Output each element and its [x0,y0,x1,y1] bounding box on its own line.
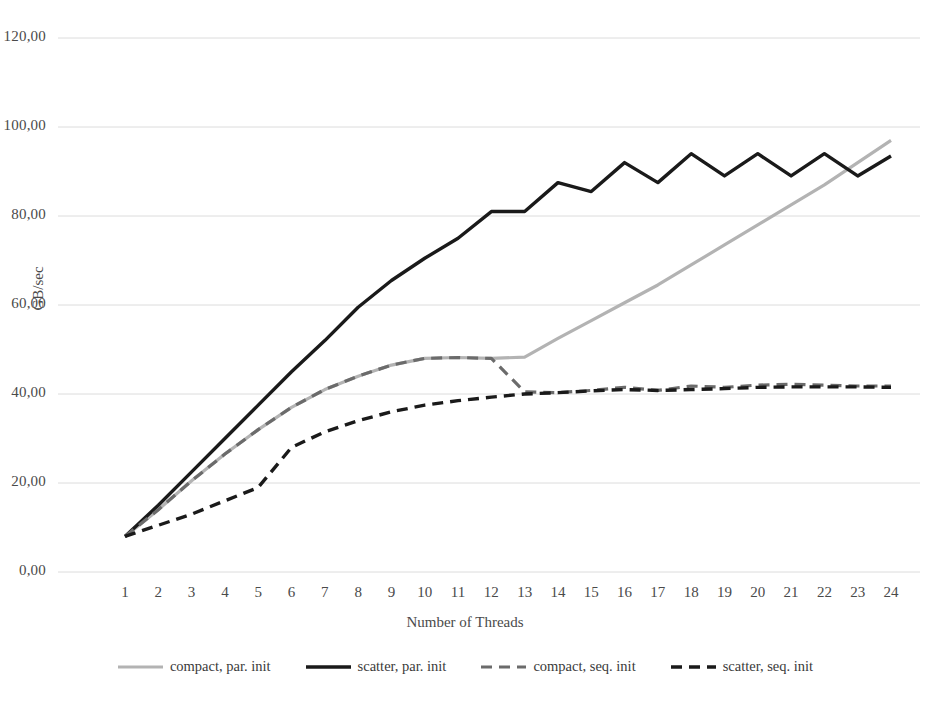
legend-label: scatter, par. init [358,658,447,675]
x-tick-label: 21 [775,584,807,601]
x-tick-label: 15 [575,584,607,601]
x-tick-label: 8 [342,584,374,601]
legend-swatch-icon [670,662,716,672]
y-tick-label: 100,00 [0,117,46,134]
chart-gridlines [58,38,920,572]
x-tick-label: 2 [142,584,174,601]
series-line-compact-par-init [125,140,891,536]
x-tick-label: 11 [442,584,474,601]
legend-swatch-icon [117,662,163,672]
legend-item-compact-seq-init[interactable]: compact, seq. init [480,658,635,675]
x-tick-label: 7 [309,584,341,601]
x-tick-label: 4 [209,584,241,601]
x-tick-label: 23 [842,584,874,601]
x-axis-title: Number of Threads [0,614,930,631]
legend-label: compact, par. init [170,658,271,675]
y-tick-label: 40,00 [0,384,46,401]
legend-item-scatter-seq-init[interactable]: scatter, seq. init [670,658,813,675]
y-tick-label: 20,00 [0,473,46,490]
x-tick-label: 17 [642,584,674,601]
legend-item-scatter-par-init[interactable]: scatter, par. init [305,658,447,675]
chart-series-layer [125,140,891,536]
legend-label: compact, seq. init [533,658,635,675]
x-tick-label: 3 [176,584,208,601]
chart-legend: compact, par. initscatter, par. initcomp… [0,658,930,675]
x-tick-label: 12 [475,584,507,601]
series-line-scatter-par-init [125,154,891,537]
x-tick-label: 10 [409,584,441,601]
x-tick-label: 5 [242,584,274,601]
x-tick-label: 13 [509,584,541,601]
legend-swatch-icon [480,662,526,672]
legend-item-compact-par-init[interactable]: compact, par. init [117,658,271,675]
x-tick-label: 16 [609,584,641,601]
y-tick-label: 120,00 [0,28,46,45]
x-tick-label: 22 [808,584,840,601]
x-tick-label: 1 [109,584,141,601]
y-axis-title: GB/sec [30,259,47,319]
x-tick-label: 14 [542,584,574,601]
x-tick-label: 18 [675,584,707,601]
x-tick-label: 9 [375,584,407,601]
x-tick-label: 20 [742,584,774,601]
y-tick-label: 0,00 [0,562,46,579]
chart-plot-area [0,0,930,708]
legend-swatch-icon [305,662,351,672]
legend-label: scatter, seq. init [723,658,813,675]
series-line-compact-seq-init [125,358,891,537]
x-tick-label: 24 [875,584,907,601]
series-line-scatter-seq-init [125,387,891,537]
chart-container: 0,0020,0040,0060,0080,00100,00120,00 123… [0,0,930,708]
y-tick-label: 80,00 [0,206,46,223]
x-tick-label: 6 [276,584,308,601]
x-tick-label: 19 [708,584,740,601]
